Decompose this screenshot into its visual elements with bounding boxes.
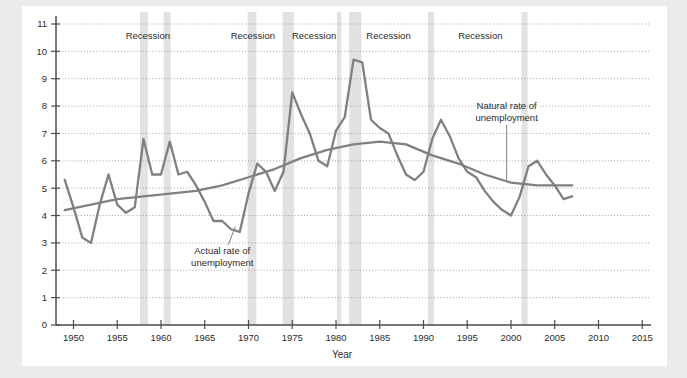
recession-band	[428, 12, 434, 325]
figure-container: 01234567891011 1950195519601965197019751…	[0, 0, 687, 378]
y-axis-tick-label: 0	[42, 319, 47, 330]
y-axis-tick-label: 4	[42, 210, 47, 221]
unemployment-line-chart: 01234567891011 1950195519601965197019751…	[22, 6, 667, 366]
recession-label: Recession	[231, 30, 275, 41]
x-axis-tick-label: 2015	[632, 332, 653, 343]
chart-panel: 01234567891011 1950195519601965197019751…	[22, 6, 667, 366]
recession-label: Recession	[292, 30, 336, 41]
recession-label-group: RecessionRecessionRecessionRecessionRece…	[126, 30, 503, 41]
recession-band	[164, 12, 171, 325]
natural-rate-annotation-line1: Natural rate of	[477, 100, 538, 111]
y-axis-tick-label: 9	[42, 73, 47, 84]
y-axis-tick-label: 7	[42, 128, 47, 139]
y-axis-tick-label: 11	[37, 18, 47, 29]
y-axis-tick-label: 5	[42, 183, 47, 194]
x-axis-tick-label: 2000	[500, 332, 521, 343]
actual-rate-annotation-line2: unemployment	[191, 257, 254, 268]
x-axis-tick-label: 1965	[194, 332, 215, 343]
x-axis-tick-label: 1980	[325, 332, 346, 343]
x-axis-tick-label: 2005	[544, 332, 565, 343]
x-axis-title: Year	[332, 349, 353, 360]
x-axis-tick-label: 1960	[150, 332, 171, 343]
x-axis-tick-label: 1990	[413, 332, 434, 343]
x-axis-tick-label: 1995	[457, 332, 478, 343]
x-axis-tick-label: 1955	[107, 332, 128, 343]
recession-label: Recession	[126, 30, 170, 41]
x-axis-tick-label: 1950	[63, 332, 84, 343]
y-axis-tick-label: 8	[42, 100, 47, 111]
recession-band	[140, 12, 148, 325]
recession-label: Recession	[366, 30, 410, 41]
x-axis-tick-label: 1970	[238, 332, 259, 343]
y-axis-tick-label: 2	[42, 265, 47, 276]
annotation-group: Actual rate ofunemploymentNatural rate o…	[191, 100, 538, 268]
actual-rate-annotation-line1: Actual rate of	[194, 245, 250, 256]
y-axis-tick-label: 10	[36, 46, 47, 57]
recession-label: Recession	[458, 30, 502, 41]
natural-rate-annotation-line2: unemployment	[475, 112, 538, 123]
y-axis-tick-label: 3	[42, 237, 47, 248]
x-axis-tick-label: 1975	[282, 332, 303, 343]
recession-band	[337, 12, 341, 325]
y-axis-tick-label: 6	[42, 155, 47, 166]
x-axis-tick-label: 1985	[369, 332, 390, 343]
x-axis-tick-label: 2010	[588, 332, 609, 343]
y-axis-tick-label: 1	[42, 292, 47, 303]
